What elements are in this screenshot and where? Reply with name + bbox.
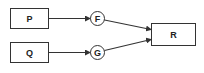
edge-g-r <box>105 40 152 51</box>
node-p: P <box>11 9 49 29</box>
node-f-label: F <box>95 14 101 24</box>
node-p-label: P <box>26 14 32 24</box>
node-g-label: G <box>94 48 101 58</box>
flow-diagram: P Q F G R <box>0 0 204 73</box>
node-f: F <box>91 12 105 26</box>
node-r-label: R <box>170 30 177 40</box>
edge-f-r <box>105 20 152 30</box>
node-r: R <box>152 24 196 46</box>
node-q-label: Q <box>26 48 33 58</box>
node-g: G <box>91 46 105 60</box>
node-q: Q <box>11 43 49 63</box>
